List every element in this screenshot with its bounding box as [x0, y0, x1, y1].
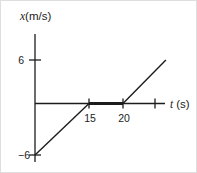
y-tick-label: 6	[18, 54, 24, 66]
y-axis-title: x(m/s)	[20, 11, 51, 23]
x-tick-label: 20	[118, 112, 130, 124]
x-axis-title: t(s)	[170, 99, 190, 111]
x-axis-variable: t	[170, 98, 173, 110]
x-tick-label: 15	[84, 112, 96, 124]
graph-canvas: 15206−6	[1, 1, 197, 173]
x-axis-units: (s)	[176, 98, 189, 110]
y-tick-label: −6	[18, 149, 30, 161]
segment-rising-initial	[35, 104, 89, 156]
velocity-time-graph: 15206−6 x(m/s) t(s)	[0, 0, 197, 173]
segment-rising-final	[123, 60, 166, 104]
y-axis-units: (m/s)	[25, 10, 51, 22]
